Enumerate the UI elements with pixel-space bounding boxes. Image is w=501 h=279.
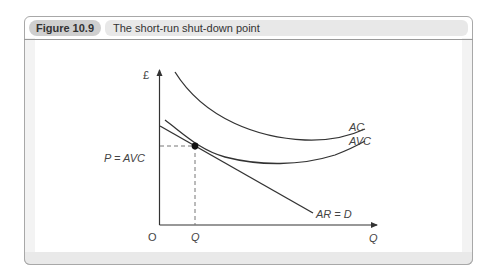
origin-label: O (148, 231, 157, 243)
price-label: P = AVC (104, 152, 145, 164)
ac-label: AC (348, 121, 364, 133)
avc-label: AVC (348, 135, 371, 147)
ar-label: AR = D (315, 208, 352, 220)
ac-curve (175, 72, 365, 140)
x-axis-label: Q (369, 232, 378, 244)
shutdown-point (192, 143, 199, 150)
quantity-label: Q (191, 231, 200, 243)
diagram-plot: £ Q O Q P = AVC AC AVC AR = D (0, 0, 501, 279)
y-axis-label: £ (143, 69, 149, 81)
